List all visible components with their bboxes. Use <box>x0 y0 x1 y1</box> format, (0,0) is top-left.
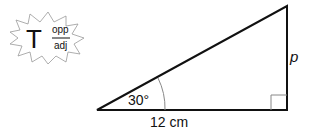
base-label: 12 cm <box>150 114 188 130</box>
angle-label: 30° <box>128 92 149 108</box>
angle-arc <box>158 78 165 110</box>
opposite-side-label: p <box>290 48 298 65</box>
badge-denominator: adj <box>54 40 67 51</box>
badge-numerator: opp <box>52 24 69 35</box>
diagram-canvas <box>0 0 314 132</box>
right-triangle <box>97 6 287 110</box>
badge-letter: T <box>26 26 42 52</box>
burst-badge-icon <box>10 12 84 64</box>
right-angle-marker <box>271 95 287 110</box>
